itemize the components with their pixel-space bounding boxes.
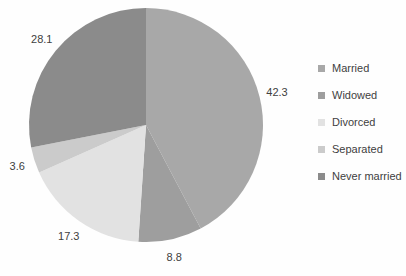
legend-label: Divorced — [332, 116, 375, 128]
legend: MarriedWidowedDivorcedSeparatedNever mar… — [318, 62, 402, 182]
legend-label: Married — [332, 62, 369, 74]
pie-slice-never-married — [29, 8, 146, 147]
legend-marker-icon — [318, 119, 325, 126]
legend-item-divorced: Divorced — [318, 116, 402, 128]
legend-item-married: Married — [318, 62, 402, 74]
legend-label: Separated — [332, 143, 383, 155]
legend-label: Never married — [332, 170, 402, 182]
legend-marker-icon — [318, 173, 325, 180]
slice-value-label: 42.3 — [266, 86, 287, 98]
legend-marker-icon — [318, 92, 325, 99]
legend-label: Widowed — [332, 89, 377, 101]
slice-value-label: 17.3 — [58, 230, 79, 242]
slice-value-label: 8.8 — [167, 251, 182, 263]
legend-marker-icon — [318, 146, 325, 153]
legend-item-never-married: Never married — [318, 170, 402, 182]
legend-item-widowed: Widowed — [318, 89, 402, 101]
pie-chart-figure: 42.38.817.33.628.1 MarriedWidowedDivorce… — [0, 0, 406, 276]
legend-item-separated: Separated — [318, 143, 402, 155]
legend-marker-icon — [318, 65, 325, 72]
slice-value-label: 28.1 — [31, 33, 52, 45]
slice-value-label: 3.6 — [10, 160, 25, 172]
